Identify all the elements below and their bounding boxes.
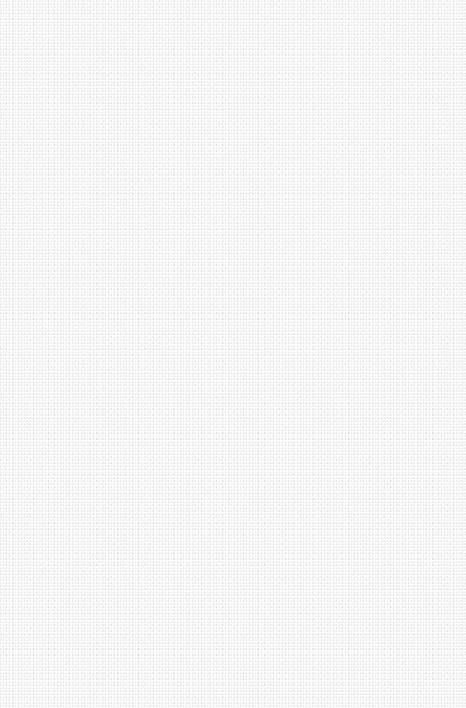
blank-noise-canvas [0,0,466,708]
